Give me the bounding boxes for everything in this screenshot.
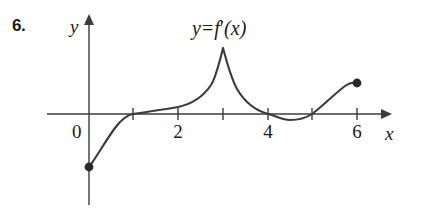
y-axis-arrowhead (84, 14, 94, 25)
axes-group (47, 14, 392, 205)
derivative-curve-path (89, 48, 357, 167)
x-axis-arrowhead (381, 109, 392, 119)
left-endpoint-dot (85, 163, 94, 172)
figure-panel: 6. y x y=f′(x) 0 2 4 6 (0, 0, 424, 215)
plot-area (0, 0, 424, 215)
right-endpoint-dot (353, 79, 362, 88)
